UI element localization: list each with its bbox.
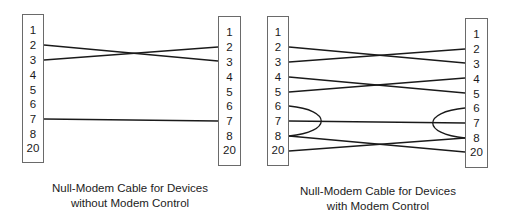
wire-7-to-7: [289, 121, 465, 123]
wire-5-to-4: [289, 78, 465, 92]
caption: Null-Modem Cable for Devices with Modem …: [278, 184, 478, 214]
